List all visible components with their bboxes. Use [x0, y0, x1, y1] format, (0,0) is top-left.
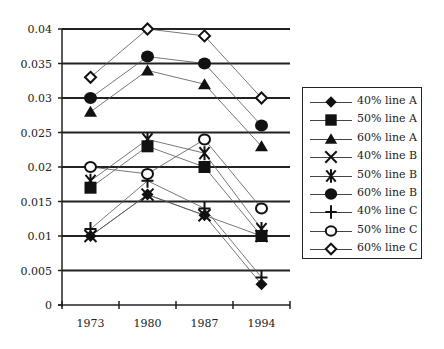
marker-diamond-open-icon [85, 72, 96, 83]
legend-label: 40% line A [357, 94, 417, 107]
legend-item: 50% line A [303, 111, 423, 129]
marker-circle-open-icon [256, 203, 267, 213]
x-tick-label: 1994 [248, 317, 276, 330]
marker-circle-filled-icon [198, 58, 211, 70]
y-tick-label: 0 [45, 299, 52, 312]
marker-triangle-filled-icon [255, 140, 268, 151]
marker-asterisk-icon [200, 146, 210, 160]
legend-item: 60% line A [303, 130, 423, 148]
legend-item: 50% line C [303, 222, 423, 240]
x-tick-label: 1980 [134, 317, 162, 330]
legend-item: 40% line A [303, 93, 423, 111]
marker-asterisk-icon [143, 132, 153, 146]
x-axis-tick-labels: 1973198019871994 [77, 317, 276, 330]
x-tick-label: 1987 [191, 317, 219, 330]
legend: 40% line A50% line A60% line A40% line B… [302, 87, 422, 259]
series-60-line-b [91, 57, 262, 126]
marker-triangle-filled-icon [325, 133, 337, 143]
marker-diamond-filled-icon [325, 96, 336, 107]
y-tick-label: 0.04 [28, 23, 53, 36]
marker-plus-icon [85, 222, 97, 236]
legend-label: 60% line A [357, 131, 417, 144]
legend-marker [323, 113, 339, 127]
legend-marker [323, 187, 339, 201]
legend-item: 60% line C [303, 240, 423, 258]
legend-label: 50% line C [357, 223, 418, 236]
legend-marker [323, 205, 339, 219]
marker-triangle-filled-icon [84, 106, 97, 117]
legend-label: 50% line A [357, 112, 417, 125]
series-50-line-c [91, 139, 262, 208]
marker-x-icon [325, 151, 336, 162]
legend-label: 40% line C [357, 204, 418, 217]
marker-asterisk-icon [326, 169, 336, 182]
series-50-line-b [91, 139, 262, 229]
y-tick-label: 0.01 [28, 230, 53, 243]
marker-circle-filled-icon [84, 92, 97, 104]
legend-label: 60% line B [357, 186, 417, 199]
legend-marker [323, 150, 339, 164]
marker-circle-open-icon [142, 169, 153, 179]
marker-asterisk-icon [257, 222, 267, 236]
marker-circle-filled-icon [325, 188, 337, 199]
legend-label: 40% line B [357, 149, 417, 162]
marker-square-filled-icon [325, 115, 336, 126]
legend-marker [323, 224, 339, 238]
y-tick-label: 0.035 [21, 58, 53, 71]
marker-circle-filled-icon [255, 120, 268, 132]
legend-marker [323, 242, 339, 256]
series-50-line-a [91, 146, 262, 236]
x-tick-label: 1973 [77, 317, 105, 330]
legend-label: 60% line C [357, 241, 418, 254]
marker-circle-open-icon [199, 134, 210, 144]
legend-marker [323, 169, 339, 183]
marker-asterisk-icon [86, 174, 96, 188]
y-tick-label: 0.005 [21, 265, 53, 278]
legend-marker [323, 95, 339, 109]
y-tick-label: 0.03 [28, 92, 53, 105]
legend-label: 50% line B [357, 168, 417, 181]
legend-item: 50% line B [303, 167, 423, 185]
marker-circle-open-icon [85, 162, 96, 172]
legend-item: 40% line C [303, 203, 423, 221]
y-axis-tick-labels: 00.0050.010.0150.020.0250.030.0350.04 [21, 23, 53, 312]
marker-square-filled-icon [199, 161, 211, 173]
y-tick-label: 0.015 [21, 196, 53, 209]
marker-plus-icon [325, 206, 336, 219]
legend-marker [323, 132, 339, 146]
legend-item: 60% line B [303, 185, 423, 203]
series-60-line-a [91, 70, 262, 146]
marker-circle-open-icon [326, 226, 336, 236]
y-tick-label: 0.02 [28, 161, 53, 174]
legend-item: 40% line B [303, 148, 423, 166]
marker-triangle-filled-icon [141, 64, 154, 75]
marker-circle-filled-icon [141, 51, 154, 63]
marker-diamond-open-icon [142, 24, 153, 35]
y-tick-label: 0.025 [21, 127, 53, 140]
marker-triangle-filled-icon [198, 78, 211, 89]
marker-diamond-open-icon [326, 244, 336, 254]
